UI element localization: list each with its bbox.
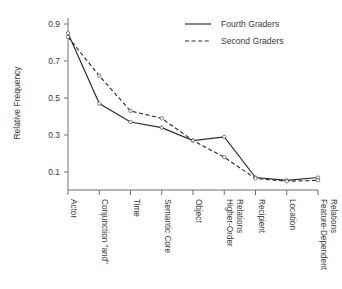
data-point <box>160 126 163 129</box>
series-line-fourth-graders <box>68 33 318 180</box>
y-axis-tick-label: 0.5 <box>48 93 60 103</box>
data-series-group <box>66 32 319 183</box>
x-axis <box>68 190 318 195</box>
data-point <box>223 156 226 159</box>
x-axis-category-labels: ActorConjunction "and"TimeSemantic CoreO… <box>69 199 338 271</box>
data-point <box>254 177 257 180</box>
series-line-second-graders <box>68 37 318 181</box>
x-axis-category-label: Object <box>194 199 203 223</box>
data-point <box>191 139 194 142</box>
data-point <box>129 120 132 123</box>
data-point <box>285 180 288 183</box>
y-axis-tick-label: 0.3 <box>48 130 60 140</box>
data-point <box>160 117 163 120</box>
data-point <box>66 32 69 35</box>
y-axis-title: Relative Frequency <box>12 66 22 140</box>
chart-figure: 0.10.30.50.70.9 Fourth GradersSecond Gra… <box>0 0 342 289</box>
x-axis-category-label: Location <box>288 199 297 230</box>
y-axis-tick-label: 0.7 <box>48 56 60 66</box>
y-axis-tick-label: 0.1 <box>48 167 60 177</box>
data-point <box>98 102 101 105</box>
x-axis-category-label: Relations <box>235 199 244 233</box>
x-axis-category-label: Higher-Order <box>225 199 234 247</box>
data-point <box>98 74 101 77</box>
data-point <box>223 135 226 138</box>
data-point <box>129 109 132 112</box>
y-axis: 0.10.30.50.70.9 <box>48 18 68 190</box>
data-point <box>66 35 69 38</box>
relative-frequency-line-chart: 0.10.30.50.70.9 Fourth GradersSecond Gra… <box>0 0 342 289</box>
chart-legend: Fourth GradersSecond Graders <box>185 19 284 46</box>
y-axis-tick-label: 0.9 <box>48 19 60 29</box>
x-axis-category-label: Time <box>132 199 141 217</box>
legend-label: Fourth Graders <box>221 19 279 29</box>
legend-label: Second Graders <box>221 36 284 46</box>
x-axis-category-label: Conjunction "and" <box>100 199 109 264</box>
x-axis-category-label: Feature-Dependent <box>319 199 328 271</box>
x-axis-category-label: Semantic Core <box>163 199 172 254</box>
x-axis-category-label: Actor <box>69 199 78 218</box>
x-axis-category-label: Recipient <box>257 199 266 234</box>
x-axis-category-label: Relations <box>329 199 338 233</box>
data-point <box>316 179 319 182</box>
y-axis-title-text: Relative Frequency <box>12 66 22 140</box>
